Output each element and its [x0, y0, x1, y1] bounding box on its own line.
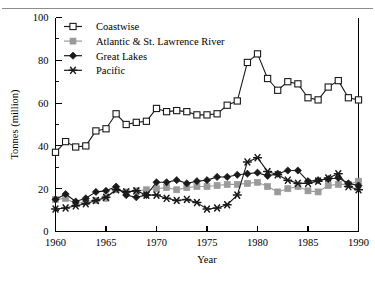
data-point-marker: [254, 155, 262, 161]
data-point-marker: [213, 205, 221, 211]
legend-label: Coastwise: [96, 21, 140, 32]
data-point-marker: [70, 38, 76, 44]
data-point-marker: [62, 205, 70, 211]
data-point-marker: [204, 184, 210, 190]
data-point-marker: [335, 181, 341, 187]
data-point-marker: [214, 173, 221, 180]
y-tick-label: 40: [38, 141, 49, 152]
y-axis-title: Tonnes (million): [9, 89, 21, 160]
data-point-marker: [264, 172, 271, 179]
data-point-marker: [335, 174, 342, 181]
data-point-marker: [315, 189, 321, 195]
data-point-marker: [133, 119, 139, 125]
x-tick-label: 1970: [146, 237, 167, 248]
data-point-marker: [284, 177, 292, 183]
chart-container: 0204060801001960196519701975198019851990…: [0, 0, 375, 281]
data-point-marker: [173, 177, 180, 184]
line-chart: 0204060801001960196519701975198019851990…: [0, 0, 375, 281]
data-point-marker: [254, 169, 261, 176]
legend-item[interactable]: Atlantic & St. Lawrence River: [64, 36, 225, 47]
data-point-marker: [194, 112, 200, 118]
x-tick-label: 1975: [197, 237, 218, 248]
data-point-marker: [265, 184, 271, 190]
data-point-marker: [153, 105, 159, 111]
data-point-marker: [73, 144, 79, 150]
data-point-marker: [70, 23, 76, 29]
data-point-marker: [345, 95, 351, 101]
data-point-marker: [315, 97, 321, 103]
y-tick-label: 20: [38, 184, 49, 195]
x-tick-label: 1990: [348, 237, 369, 248]
y-tick-label: 80: [38, 55, 49, 66]
x-tick-label: 1960: [45, 237, 66, 248]
y-tick-label: 60: [38, 98, 49, 109]
data-point-marker: [83, 143, 89, 149]
data-point-marker: [224, 102, 230, 108]
data-point-marker: [284, 167, 291, 174]
data-point-marker: [113, 111, 119, 117]
data-point-marker: [203, 177, 210, 184]
data-point-marker: [355, 97, 361, 103]
data-point-marker: [305, 188, 311, 194]
data-point-marker: [153, 192, 161, 198]
data-point-marker: [103, 126, 109, 132]
data-point-marker: [275, 87, 281, 93]
legend-item[interactable]: Pacific: [64, 65, 125, 76]
data-point-marker: [285, 79, 291, 85]
data-point-marker: [164, 109, 170, 115]
x-tick-label: 1985: [298, 237, 319, 248]
data-point-marker: [63, 139, 69, 145]
data-point-marker: [224, 181, 230, 187]
data-point-marker: [123, 121, 129, 127]
data-point-marker: [234, 98, 240, 104]
legend-item[interactable]: Coastwise: [64, 21, 140, 32]
data-point-marker: [214, 111, 220, 117]
data-point-marker: [244, 159, 252, 165]
data-point-marker: [184, 109, 190, 115]
data-point-marker: [204, 112, 210, 118]
legend-label: Atlantic & St. Lawrence River: [96, 36, 225, 47]
data-point-marker: [174, 107, 180, 113]
data-point-marker: [325, 84, 331, 90]
y-tick-label: 100: [33, 12, 49, 23]
data-point-marker: [93, 128, 99, 134]
x-tick-label: 1980: [247, 237, 268, 248]
data-point-marker: [92, 188, 99, 195]
data-point-marker: [244, 180, 250, 186]
data-point-marker: [325, 182, 331, 188]
data-point-marker: [285, 186, 291, 192]
x-axis-title: Year: [197, 254, 217, 265]
data-point-marker: [102, 187, 109, 194]
data-point-marker: [255, 179, 261, 185]
data-point-marker: [154, 186, 160, 192]
data-point-marker: [214, 182, 220, 188]
data-point-marker: [234, 171, 241, 178]
data-point-marker: [265, 75, 271, 81]
data-point-marker: [254, 51, 260, 57]
data-point-marker: [305, 95, 311, 101]
data-point-marker: [163, 195, 171, 201]
data-point-marker: [173, 197, 181, 203]
data-point-marker: [69, 52, 76, 59]
data-point-marker: [295, 81, 301, 87]
data-point-marker: [143, 118, 149, 124]
data-point-marker: [183, 196, 191, 202]
data-point-marker: [69, 67, 77, 73]
legend-item[interactable]: Great Lakes: [64, 51, 147, 62]
chart-legend: CoastwiseAtlantic & St. Lawrence RiverGr…: [64, 21, 225, 76]
data-point-marker: [275, 189, 281, 195]
x-tick-label: 1965: [96, 237, 117, 248]
legend-label: Pacific: [96, 65, 125, 76]
data-point-marker: [52, 149, 58, 155]
data-point-marker: [224, 173, 231, 180]
data-point-marker: [335, 78, 341, 84]
legend-label: Great Lakes: [96, 51, 147, 62]
data-point-marker: [133, 194, 140, 201]
data-point-marker: [244, 59, 250, 65]
data-point-marker: [174, 187, 180, 193]
